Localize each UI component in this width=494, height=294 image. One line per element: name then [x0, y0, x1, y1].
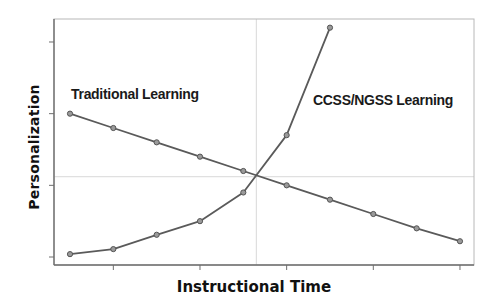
data-point-marker — [327, 197, 332, 202]
data-point-marker — [154, 140, 159, 145]
data-point-marker — [111, 247, 116, 252]
plot-frame — [54, 19, 474, 265]
series-label-traditional: Traditional Learning — [71, 86, 199, 102]
line-chart — [0, 0, 494, 294]
axis-ticks — [49, 42, 460, 270]
data-point-marker — [111, 125, 116, 130]
data-point-marker — [327, 25, 332, 30]
data-point-marker — [241, 168, 246, 173]
data-series — [67, 25, 462, 257]
data-point-marker — [284, 183, 289, 188]
data-point-marker — [284, 133, 289, 138]
y-axis-label: Personalization — [26, 84, 42, 209]
data-point-marker — [457, 239, 462, 244]
series-ccss-ngss — [67, 25, 332, 257]
data-point-marker — [197, 219, 202, 224]
series-traditional — [67, 111, 462, 244]
data-point-marker — [241, 190, 246, 195]
data-point-marker — [197, 154, 202, 159]
gridlines — [54, 19, 474, 265]
x-axis-label: Instructional Time — [177, 278, 331, 294]
series-label-ccss-ngss: CCSS/NGSS Learning — [313, 92, 453, 108]
data-point-marker — [67, 111, 72, 116]
data-point-marker — [371, 211, 376, 216]
data-point-marker — [154, 232, 159, 237]
data-point-marker — [414, 226, 419, 231]
data-point-marker — [67, 252, 72, 257]
series-line — [70, 114, 460, 242]
plot-border — [54, 19, 474, 265]
